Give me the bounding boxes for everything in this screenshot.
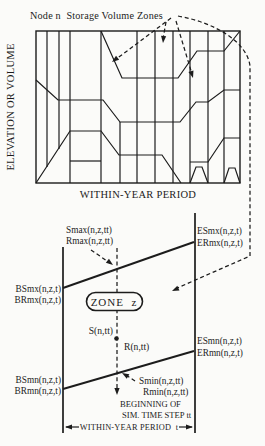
label-ermn: ERmn(n,z,t)	[197, 348, 243, 359]
label-brmx: BRmx(n,z,t)	[15, 295, 61, 306]
label-bsmn: BSmn(n,z,t)	[16, 375, 61, 386]
figure-storage-volume-zones: Node n Storage Volume Zones ELEVATION OR	[0, 0, 265, 446]
label-rmax: Rmax(n,z,tt)	[66, 236, 113, 247]
label-rmin: Rmin(n,z,tt)	[143, 387, 188, 398]
arrowhead-icon	[114, 388, 119, 395]
storage-zones-chart: Node n Storage Volume Zones ELEVATION OR	[5, 10, 240, 200]
arrowhead-icon	[186, 424, 193, 429]
period-span-label: WITHIN-YEAR PERIOD t	[80, 423, 179, 432]
label-brmn: BRmn(n,z,t)	[15, 386, 61, 397]
y-axis-label: ELEVATION OR VOLUME	[5, 43, 16, 170]
period-gridlines	[47, 31, 224, 183]
diagram-canvas: Node n Storage Volume Zones ELEVATION OR	[0, 0, 265, 446]
label-esmx: ESmx(n,z,t)	[197, 226, 242, 237]
state-point-dot	[114, 336, 119, 341]
label-smin: Smin(n,z,tt)	[139, 376, 183, 387]
label-smax: Smax(n,z,tt)	[66, 225, 112, 236]
arrowhead-icon	[106, 259, 115, 267]
zone-detail-diagram: Smax(n,z,tt) Rmax(n,z,tt) ESmx(n,z,t) ER…	[15, 213, 243, 433]
arrowhead-icon	[171, 286, 180, 294]
zone-upper-bound-line	[63, 242, 194, 288]
arrowhead-icon	[160, 36, 166, 43]
period-span-indicator: WITHIN-YEAR PERIOD t	[65, 423, 193, 432]
arrowhead-icon	[65, 424, 72, 429]
time-step-note-line1: BEGINNING OF	[120, 399, 181, 409]
label-esmn: ESmn(n,z,t)	[197, 336, 242, 347]
x-axis-label: WITHIN-YEAR PERIOD	[80, 189, 197, 200]
time-step-note-line2: SIM. TIME STEP tt	[122, 410, 192, 420]
label-ermx: ERmx(n,z,t)	[197, 238, 243, 249]
label-storage: S(n,tt)	[89, 325, 113, 337]
smax-pointer	[91, 250, 110, 263]
zone-badge-label: ZONE z	[91, 296, 138, 308]
zone-boundary-lines	[36, 31, 240, 183]
label-bsmx: BSmx(n,z,t)	[16, 284, 61, 295]
figure-title: Node n Storage Volume Zones	[30, 10, 163, 21]
label-release: R(n,tt)	[124, 341, 149, 353]
